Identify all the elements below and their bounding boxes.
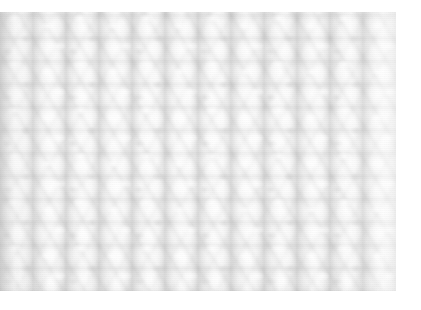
knit-fabric-photo xyxy=(0,12,396,291)
screenshot-canvas: Macro photograph of white cream-colored … xyxy=(0,0,421,310)
soft-focus-haze xyxy=(0,12,396,291)
